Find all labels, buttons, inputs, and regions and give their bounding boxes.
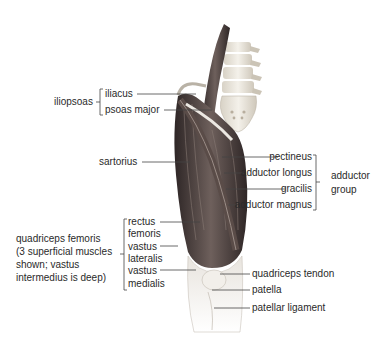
psoas-major-label: psoas major — [105, 104, 159, 116]
patella-shape — [202, 270, 226, 290]
patella-label: patella — [252, 284, 281, 296]
quadriceps-group-label-2: (3 superficial muscles — [16, 246, 112, 258]
iliacus-label: iliacus — [105, 88, 133, 100]
adductor-group-label-line1: adductor — [331, 170, 370, 182]
quadriceps-group-label-1: quadriceps femoris — [16, 233, 100, 245]
pectineus-label: pectineus — [269, 151, 312, 163]
vastus-medialis-label-2: medialis — [128, 278, 165, 290]
adductor-group-label-line2: group — [331, 184, 357, 196]
rectus-femoris-label-2: femoris — [128, 228, 161, 240]
spine — [222, 42, 262, 95]
sartorius-label: sartorius — [99, 156, 137, 168]
adductor-longus-label: adductor longus — [241, 167, 312, 179]
vastus-medialis-label-1: vastus — [128, 265, 157, 277]
adductor-magnus-label: adductor magnus — [235, 199, 312, 211]
quadriceps-tendon-label: quadriceps tendon — [252, 268, 334, 280]
gracilis-label: gracilis — [281, 183, 312, 195]
quadriceps-group-label-4: intermedius is deep) — [16, 272, 106, 284]
quadriceps-group-label-3: shown; vastus — [16, 259, 79, 271]
thigh-illustration — [0, 0, 385, 337]
rectus-femoris-label-1: rectus — [128, 216, 155, 228]
iliopsoas-group-label: iliopsoas — [54, 96, 93, 108]
vastus-lateralis-label-1: vastus — [128, 241, 157, 253]
patellar-ligament-label: patellar ligament — [252, 302, 325, 314]
vastus-lateralis-label-2: lateralis — [128, 253, 162, 265]
